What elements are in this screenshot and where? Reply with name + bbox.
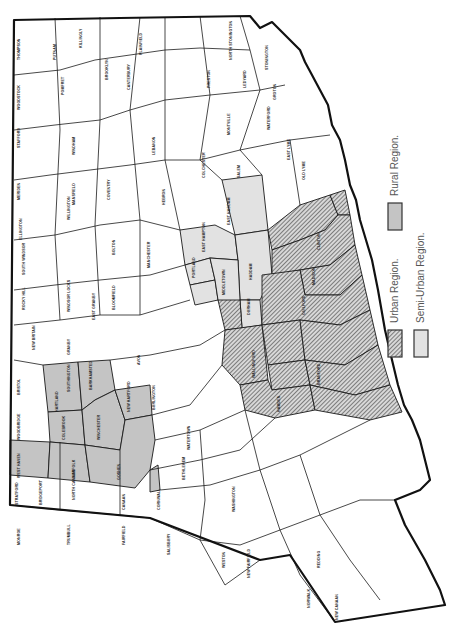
label-durham: DURHAM [247, 298, 251, 315]
label-sharon: TRUMBULL [67, 524, 71, 545]
label-thompson: THOMPSON [17, 38, 21, 60]
town-north-branford [262, 320, 305, 365]
label-glastonbury: MANCHESTER [147, 241, 151, 268]
label-litchfield: GOSHEN [117, 464, 121, 480]
label-canterbury: CANTERBURY [127, 63, 131, 90]
label-east-lyme: EAST LYME [287, 138, 291, 160]
label-norwalk: REDDING [317, 551, 321, 568]
label-kent: FAIRFIELD [122, 525, 126, 545]
label-waterbury: WATERTOWN [187, 425, 191, 450]
label-stafford: MERIDEN [17, 182, 21, 200]
label-putnam: PUTNAM [53, 44, 57, 60]
label-suffield: ROCKY HILL [22, 286, 26, 310]
label-torrington: WINCHESTER [97, 415, 101, 440]
connecticut-region-map: THOMPSON PUTNAM KILLINGLY WOODSTOCK POMF… [0, 0, 457, 626]
label-windham: WINDHAM [72, 137, 76, 155]
label-harwinton: NEW HARTFORD [127, 381, 131, 412]
label-guilford: GUILFORD [302, 295, 306, 315]
label-salem: SALEM [237, 165, 241, 178]
label-bloomfield: EAST GRANBY [92, 292, 96, 320]
label-colebrook: WOODBRIDGE [17, 413, 21, 440]
town-durham [240, 300, 262, 328]
label-east-haddam: EAST HADDAM [227, 197, 231, 225]
label-simsbury: GRANBY [67, 338, 71, 355]
label-pomfret: POMFRET [61, 76, 65, 95]
label-coventry: COVENTRY [107, 179, 111, 200]
label-preston: PRESTON [207, 70, 211, 88]
label-ledyard: LEDYARD [243, 70, 247, 88]
rural-swatch [388, 203, 402, 230]
label-canaan: BRIDGEPORT [39, 479, 43, 505]
label-madison: MADISON [312, 267, 316, 285]
label-haddam: HADDAM [249, 263, 253, 280]
label-middletown: MIDDLETOWN [222, 269, 226, 295]
legend-label-semi-urban: Semi-Urban Region. [415, 232, 426, 323]
label-bristol: BURLINGTON [152, 385, 156, 410]
label-mansfield: MANSFIELD [72, 183, 76, 205]
label-farmington: AVON [137, 354, 141, 365]
label-ridgefield: NEW FAIRFIELD [247, 548, 251, 578]
urban-swatch [388, 330, 402, 357]
label-montville: MONTVILLE [227, 113, 231, 135]
label-windsor: WINDSOR LOCKS [67, 279, 71, 312]
label-clinton: CLINTON [317, 233, 321, 250]
label-salisbury: MONROE [17, 528, 21, 545]
label-hartford: BLOOMFIELD [112, 285, 116, 310]
label-lebanon: LEBANON [152, 136, 156, 155]
label-norfolk: WEST HAVEN [17, 453, 21, 478]
label-brooklyn: BROOKLYN [105, 59, 109, 80]
label-wallingford: WALLINGFORD [252, 350, 256, 378]
label-north-canaan: STRATFORD [15, 482, 19, 505]
label-newtown: WASHINGTON [232, 486, 236, 512]
label-woodbury: BETHLEHEM [182, 457, 186, 480]
label-hebron: HEBRON [162, 189, 166, 205]
legend-item-urban: Urban Region. [388, 259, 402, 357]
label-branford: BRANFORD [317, 363, 321, 385]
semi-urban-swatch [414, 330, 428, 357]
label-enfield: SOUTH WINDSOR [22, 242, 26, 275]
label-hamden: HAMDEN [277, 395, 281, 412]
label-portland: PORTLAND [192, 257, 196, 278]
town-winchester [48, 410, 85, 445]
label-winchester: COLEBROOK [62, 415, 66, 440]
label-stonington: STONINGTON [265, 45, 269, 70]
label-north-stonington: NORTH STONINGTON [229, 20, 233, 60]
town-goshen [48, 442, 90, 482]
label-old-lyme: OLD LYME [302, 160, 306, 180]
town-hartland-barkhamsted [43, 362, 82, 412]
legend-label-rural: Rural Region. [389, 135, 400, 196]
label-east-hampton: EAST HAMPTON [202, 222, 206, 252]
label-washington: CORNWALL [157, 488, 161, 510]
label-woodstock: WOODSTOCK [17, 85, 21, 110]
label-killingly: KILLINGLY [79, 28, 83, 48]
label-warren: CANAAN [122, 494, 126, 510]
label-new-milford: SALISBURY [167, 533, 171, 555]
town-norfolk [10, 440, 50, 478]
label-manchester: BOLTON [112, 239, 116, 255]
label-colchester: COLCHESTER [202, 152, 206, 178]
label-groton: GROTON [273, 83, 277, 100]
label-barkhamsted: HARTLAND [55, 391, 59, 412]
legend: Urban Region. Semi-Urban Region. Rural R… [388, 135, 428, 357]
label-waterford: WATERFORD [267, 106, 271, 130]
label-somers: ELLINGTON [19, 218, 23, 240]
label-new-hartford: BARKHAMSTED [89, 360, 93, 390]
label-hartland: BRISTOL [17, 378, 21, 395]
legend-label-urban: Urban Region. [389, 259, 400, 323]
town-cromwell [190, 280, 218, 305]
label-greenwich: NEW CANAAN [335, 594, 339, 620]
label-tolland: WILLINGTON [67, 196, 71, 220]
label-union: STAFFORD [17, 128, 21, 148]
legend-item-rural: Rural Region. [388, 135, 402, 230]
label-danbury: WESTON [222, 551, 226, 568]
label-granby: NEW BRITAIN [32, 325, 36, 350]
label-plainfield: PLAINFIELD [139, 33, 143, 55]
label-canton: SOUTHINGTON [67, 364, 71, 392]
map-canvas: THOMPSON PUTNAM KILLINGLY WOODSTOCK POMF… [0, 0, 457, 626]
label-stamford: NORWALK [307, 588, 311, 608]
label-cornwall: NORTH CANAAN [72, 469, 76, 500]
legend-item-semi-urban: Semi-Urban Region. [414, 232, 428, 357]
